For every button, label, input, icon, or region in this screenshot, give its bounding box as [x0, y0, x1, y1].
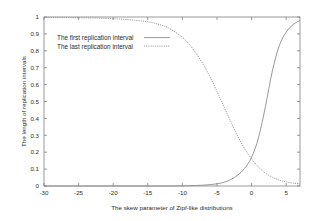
- x-tick-label: -10: [178, 189, 188, 196]
- x-tick-label: -5: [214, 189, 220, 196]
- legend-label-last: The last replication interval: [57, 43, 133, 51]
- y-tick-label: 0.2: [30, 148, 39, 155]
- y-axis-label: The length of replication intervals: [20, 56, 27, 147]
- y-tick-label: 0.6: [30, 81, 39, 88]
- legend-label-first: The first replication interval: [57, 34, 133, 42]
- x-axis-tick-labels: -30-25-20-15-10-505: [40, 189, 289, 196]
- y-tick-label: 0.4: [30, 115, 39, 122]
- chart-plot-area: 00.10.20.30.40.50.60.70.80.91 -30-25-20-…: [0, 0, 312, 221]
- y-tick-label: 0.9: [30, 30, 39, 37]
- chart-legend: The first replication interval The last …: [57, 34, 170, 51]
- x-tick-label: -15: [143, 189, 153, 196]
- y-tick-label: 0.5: [30, 98, 39, 105]
- x-axis-label: The skew parameter of Zipf-like distribu…: [111, 204, 232, 211]
- y-tick-label: 0.8: [30, 47, 39, 54]
- y-tick-label: 0.3: [30, 132, 39, 139]
- y-tick-label: 1: [36, 13, 40, 20]
- x-tick-label: 0: [250, 189, 254, 196]
- x-tick-label: -25: [74, 189, 84, 196]
- y-axis-tick-labels: 00.10.20.30.40.50.60.70.80.91: [30, 13, 39, 189]
- x-tick-label: -30: [40, 189, 50, 196]
- y-tick-label: 0.7: [30, 64, 39, 71]
- x-tick-label: 5: [284, 189, 288, 196]
- y-tick-label: 0.1: [30, 165, 39, 172]
- x-tick-label: -20: [109, 189, 119, 196]
- chart-figure: 00.10.20.30.40.50.60.70.80.91 -30-25-20-…: [0, 0, 312, 221]
